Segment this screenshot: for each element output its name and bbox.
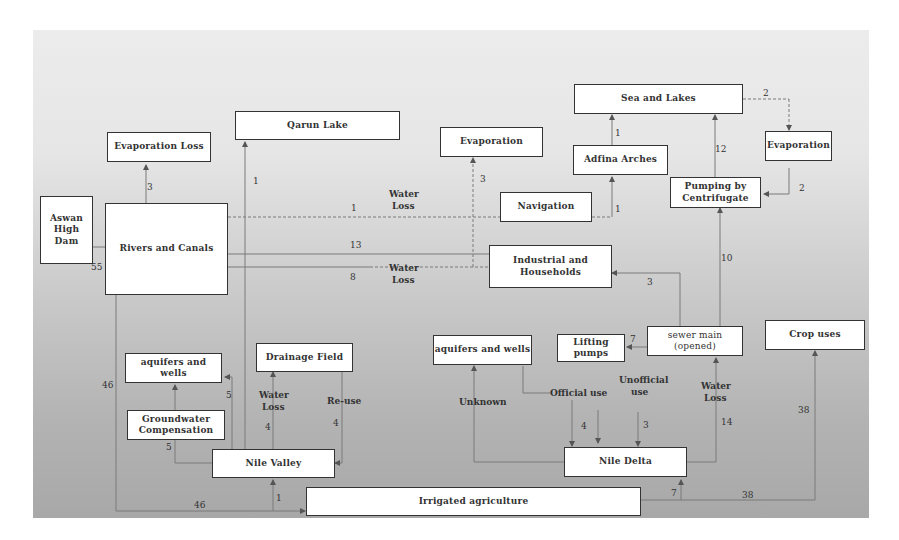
flow-label: Unknown (459, 397, 506, 408)
node-lifting-pumps: Lifting pumps (557, 334, 625, 362)
node-label: Evaporation (460, 136, 523, 147)
flow-label: 1 (253, 176, 259, 187)
flow-label: 1 (351, 203, 357, 214)
node-sewer-main: sewer main (opened) (647, 326, 743, 356)
node-label: Drainage Field (266, 352, 343, 363)
flow-label: 38 (742, 490, 753, 501)
node-label: Evaporation (767, 140, 830, 151)
node-sea-and-lakes: Sea and Lakes (574, 84, 743, 114)
node-label: Navigation (518, 201, 575, 212)
flow-label: 4 (581, 421, 587, 432)
flow-label: 3 (480, 174, 486, 185)
flow-label: 14 (721, 417, 732, 428)
flow-label: Unofficial (619, 375, 668, 386)
node-label: Nile Delta (599, 456, 652, 467)
node-label: Aswan High Dam (50, 213, 84, 247)
flow-label: 3 (643, 420, 649, 431)
flow-label: Re-use (327, 396, 361, 407)
flow-label: Water (389, 263, 419, 274)
flow-label: 4 (265, 422, 271, 433)
node-rivers-and-canals: Rivers and Canals (105, 203, 228, 295)
node-label: Irrigated agriculture (419, 496, 529, 507)
node-label: sewer main (opened) (660, 330, 730, 353)
node-adfina-arches: Adfina Arches (573, 145, 668, 175)
flow-label: 46 (194, 500, 205, 511)
flow-label: 55 (91, 262, 102, 273)
flow-label: 46 (102, 380, 113, 391)
flow-label: Water (701, 381, 731, 392)
node-pumping-by-centrifugate: Pumping by Centrifugate (670, 177, 761, 208)
flow-label: Water (259, 390, 289, 401)
node-label: Pumping by Centrifugate (676, 181, 756, 204)
node-evaporation-loss: Evaporation Loss (107, 132, 211, 162)
node-nile-delta: Nile Delta (564, 447, 687, 477)
flow-label: 1 (276, 493, 282, 504)
node-label: Industrial and Households (511, 255, 591, 278)
node-label: Evaporation Loss (114, 141, 204, 152)
node-label: Adfina Arches (584, 154, 657, 165)
node-industrial-and-households: Industrial and Households (489, 245, 612, 288)
node-drainage-field: Drainage Field (256, 343, 353, 372)
flow-label: Loss (392, 201, 414, 212)
node-label: Rivers and Canals (120, 243, 214, 254)
node-groundwater-compensation: Groundwater Compensation (127, 410, 225, 440)
node-label: aquifers and wells (126, 357, 221, 380)
flow-label: 1 (615, 204, 621, 215)
node-qarun-lake: Qarun Lake (235, 111, 400, 140)
node-aquifers-and-wells-right: aquifers and wells (433, 335, 532, 365)
flow-label: Official use (550, 388, 607, 399)
flow-label: 1 (615, 128, 621, 139)
node-aquifers-and-wells-left: aquifers and wells (125, 353, 222, 383)
flow-label: Loss (392, 275, 414, 286)
node-evaporation-right: Evaporation (765, 131, 832, 161)
flow-label: 3 (147, 182, 153, 193)
node-nile-valley: Nile Valley (212, 449, 335, 478)
flow-label: 13 (350, 240, 361, 251)
node-label: Qarun Lake (287, 120, 348, 131)
node-label: Sea and Lakes (621, 93, 696, 104)
flow-label: 12 (715, 144, 726, 155)
flow-label: 10 (721, 253, 732, 264)
flow-label: use (631, 387, 648, 398)
flow-label: 38 (798, 405, 809, 416)
flow-label: Loss (704, 393, 726, 404)
flow-label: 2 (799, 183, 805, 194)
node-evaporation-mid: Evaporation (440, 127, 543, 157)
node-label: Lifting pumps (569, 337, 614, 360)
node-navigation: Navigation (500, 192, 592, 222)
flow-label: 7 (630, 334, 636, 345)
node-crop-uses: Crop uses (765, 320, 865, 350)
node-label: Nile Valley (246, 458, 302, 469)
flow-label: 7 (671, 488, 677, 499)
flow-label: 5 (226, 390, 232, 401)
flow-label: Water (389, 189, 419, 200)
flow-label: 5 (166, 442, 172, 453)
flow-label: 8 (350, 272, 356, 283)
flow-label: 3 (647, 277, 653, 288)
node-irrigated-agriculture: Irrigated agriculture (306, 487, 641, 516)
flow-label: 4 (333, 418, 339, 429)
flow-label: 2 (763, 88, 769, 99)
node-label: Groundwater Compensation (136, 414, 216, 437)
node-aswan-high-dam: Aswan High Dam (40, 196, 93, 264)
flow-label: Loss (262, 402, 284, 413)
node-label: aquifers and wells (435, 344, 530, 355)
node-label: Crop uses (789, 329, 841, 340)
